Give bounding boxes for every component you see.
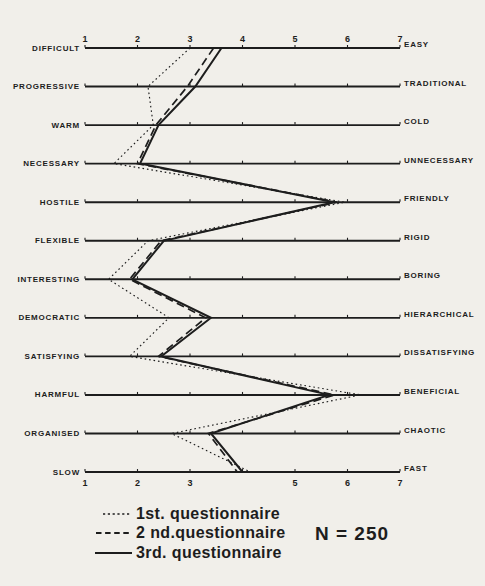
legend-label-2nd: 2 nd.questionnaire (136, 524, 285, 542)
left-pole-label: PROGRESSIVE (13, 82, 80, 91)
scanned-figure: DIFFICULTEASYPROGRESSIVETRADITIONALWARMC… (0, 0, 485, 586)
right-pole-label: COLD (404, 117, 430, 126)
legend-item-3rd: 3rd. questionnaire (95, 543, 285, 563)
series-line-dashed-questionnaire (130, 48, 337, 472)
scale-number-bottom: 1 (82, 478, 87, 488)
left-pole-label: HOSTILE (40, 198, 80, 207)
scale-row: DEMOCRATICHIERARCHICAL (18, 310, 474, 323)
scale-number-bottom: 2 (135, 478, 140, 488)
legend-item-1st: 1st. questionnaire (95, 504, 285, 524)
scale-row: FLEXIBLERIGID (35, 233, 430, 246)
right-pole-label: RIGID (404, 233, 430, 242)
right-pole-label: DISSATISFYING (404, 348, 475, 357)
scale-row: ORGANISEDCHAOTIC (24, 426, 446, 439)
left-pole-label: FLEXIBLE (35, 236, 80, 245)
chart-legend: 1st. questionnaire 2 nd.questionnaire 3r… (95, 504, 285, 563)
legend-line-solid-icon (95, 549, 132, 557)
left-pole-label: ORGANISED (24, 429, 80, 438)
series-line-solid-questionnaire (132, 48, 334, 472)
scale-row: WARMCOLD (51, 117, 429, 130)
scale-number-top: 1 (82, 34, 87, 44)
left-pole-label: WARM (51, 121, 80, 130)
left-pole-label: NECESSARY (23, 159, 80, 168)
left-pole-label: INTERESTING (17, 275, 80, 284)
scale-number-top: 3 (187, 34, 192, 44)
semantic-differential-chart: DIFFICULTEASYPROGRESSIVETRADITIONALWARMC… (0, 0, 485, 496)
right-pole-label: BENEFICIAL (404, 387, 460, 396)
scale-row: PROGRESSIVETRADITIONAL (13, 79, 467, 92)
left-pole-label: DIFFICULT (32, 44, 80, 53)
legend-label-3rd: 3rd. questionnaire (136, 544, 282, 562)
scale-number-bottom: 5 (292, 478, 297, 488)
scale-number-bottom: 7 (397, 478, 402, 488)
right-pole-label: CHAOTIC (404, 426, 446, 435)
legend-item-2nd: 2 nd.questionnaire (95, 524, 285, 544)
right-pole-label: HIERARCHICAL (404, 310, 475, 319)
right-pole-label: EASY (404, 40, 429, 49)
right-pole-label: UNNECESSARY (404, 156, 474, 165)
scale-row: DIFFICULTEASY (32, 40, 429, 53)
right-pole-label: TRADITIONAL (404, 79, 467, 88)
legend-label-1st: 1st. questionnaire (136, 505, 280, 523)
scale-number-top: 4 (240, 34, 245, 44)
scale-number-top: 5 (292, 34, 297, 44)
scale-number-top: 7 (397, 34, 402, 44)
left-pole-label: HARMFUL (35, 390, 80, 399)
scale-row: SATISFYINGDISSATISFYING (25, 348, 476, 361)
series-line-dotted-questionnaire (109, 48, 361, 472)
scale-row: HOSTILEFRIENDLY (40, 194, 450, 207)
legend-line-dashed-icon (95, 529, 132, 537)
legend-line-dotted-icon (95, 510, 132, 518)
scale-number-bottom: 3 (187, 478, 192, 488)
left-pole-label: SATISFYING (25, 352, 80, 361)
scale-number-bottom: 6 (345, 478, 350, 488)
left-pole-label: DEMOCRATIC (18, 313, 80, 322)
right-pole-label: FAST (404, 464, 428, 473)
scale-row: INTERESTINGBORING (17, 271, 440, 284)
right-pole-label: BORING (404, 271, 441, 280)
scale-number-top: 6 (345, 34, 350, 44)
scale-row: NECESSARYUNNECESSARY (23, 156, 474, 169)
sample-size-annotation: N = 250 (315, 523, 389, 545)
scale-row: HARMFULBENEFICIAL (35, 387, 460, 400)
right-pole-label: FRIENDLY (404, 194, 450, 203)
left-pole-label: SLOW (53, 468, 80, 477)
scale-number-top: 2 (135, 34, 140, 44)
